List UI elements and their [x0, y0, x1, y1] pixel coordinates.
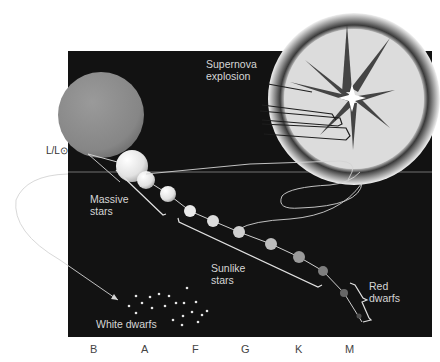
sunlike-stars-label: Sunlike stars	[211, 262, 245, 286]
y-axis-label: L/L⊙	[46, 145, 68, 156]
red-giant-star	[58, 72, 144, 158]
massive-stars-label: Massive stars	[90, 193, 129, 217]
star-icon	[184, 205, 196, 217]
star-icon	[340, 289, 348, 297]
star-icon	[293, 251, 305, 263]
x-tick-k: K	[295, 343, 302, 355]
x-tick-a: A	[141, 343, 148, 355]
star-icon	[233, 226, 245, 238]
x-tick-f: F	[192, 343, 199, 355]
supernova	[268, 13, 440, 185]
red-dwarfs-label: Red dwarfs	[369, 280, 400, 304]
x-tick-m: M	[345, 343, 354, 355]
stellar-evolution-diagram: Supernova explosion Massive stars Sunlik…	[0, 0, 440, 362]
white-dwarfs-label: White dwarfs	[96, 318, 157, 330]
star-icon	[318, 266, 328, 276]
supernova-label: Supernova explosion	[206, 58, 257, 82]
star-icon	[357, 314, 362, 319]
star-icon	[265, 238, 277, 250]
x-tick-g: G	[241, 343, 250, 355]
x-tick-b: B	[90, 343, 97, 355]
star-icon	[207, 215, 219, 227]
diagram-canvas	[0, 0, 440, 362]
star-icon	[160, 186, 176, 202]
